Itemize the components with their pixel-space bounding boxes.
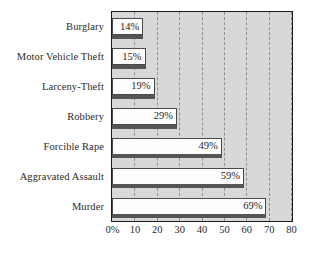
x-tick-label: 70 (264, 224, 275, 235)
x-tick-label: 0% (106, 224, 120, 235)
category-label-slot: Burglary (0, 11, 108, 41)
bar-shadow (112, 184, 244, 188)
bars-layer: 14%15%19%29%49%59%69% (112, 12, 292, 221)
category-axis: BurglaryMotor Vehicle TheftLarceny-Theft… (0, 11, 108, 222)
bar: 59% (112, 168, 244, 185)
bar: 69% (112, 198, 266, 215)
bar-value-label: 14% (120, 22, 139, 33)
bar-slot: 19% (112, 72, 292, 102)
bar-value-label: 29% (154, 111, 173, 122)
category-label: Larceny-Theft (42, 81, 104, 92)
category-label: Burglary (66, 21, 104, 32)
bar-slot: 49% (112, 131, 292, 161)
bar: 49% (112, 138, 222, 155)
bar-shadow (112, 95, 155, 99)
plot-area: 14%15%19%29%49%59%69% (111, 11, 293, 222)
category-label-slot: Murder (0, 192, 108, 222)
x-tick-label: 40 (197, 224, 208, 235)
category-label: Murder (72, 201, 104, 212)
bar-value-label: 59% (221, 171, 240, 182)
x-tick-label: 80 (286, 224, 297, 235)
category-label-slot: Larceny-Theft (0, 71, 108, 101)
bar: 14% (112, 18, 143, 35)
bar-shadow (112, 125, 177, 129)
bar-shadow (112, 214, 266, 218)
bar: 19% (112, 78, 155, 95)
category-label-slot: Motor Vehicle Theft (0, 41, 108, 71)
bar-shadow (112, 65, 146, 69)
category-label-slot: Robbery (0, 101, 108, 131)
x-tick-label: 60 (242, 224, 253, 235)
category-label: Motor Vehicle Theft (17, 51, 104, 62)
x-tick-label: 50 (219, 224, 230, 235)
category-label: Forcible Rape (44, 141, 105, 152)
bar-value-label: 69% (243, 201, 262, 212)
bar-slot: 69% (112, 191, 292, 221)
bar-slot: 59% (112, 161, 292, 191)
x-axis: 0%1020304050607080 (111, 224, 293, 240)
category-label-slot: Forcible Rape (0, 132, 108, 162)
bar: 29% (112, 108, 177, 125)
x-tick-label: 20 (152, 224, 163, 235)
bar-value-label: 19% (131, 81, 150, 92)
x-tick-label: 10 (130, 224, 141, 235)
bar-chart: BurglaryMotor Vehicle TheftLarceny-Theft… (0, 0, 313, 253)
bar-slot: 15% (112, 42, 292, 72)
bar: 15% (112, 48, 146, 65)
bar-value-label: 49% (198, 141, 217, 152)
bar-shadow (112, 154, 222, 158)
category-label: Robbery (67, 111, 104, 122)
bar-shadow (112, 35, 143, 39)
category-label-slot: Aggravated Assault (0, 162, 108, 192)
bar-value-label: 15% (122, 52, 141, 63)
bar-slot: 14% (112, 12, 292, 42)
category-label: Aggravated Assault (20, 171, 104, 182)
bar-slot: 29% (112, 102, 292, 132)
x-tick-label: 30 (174, 224, 185, 235)
